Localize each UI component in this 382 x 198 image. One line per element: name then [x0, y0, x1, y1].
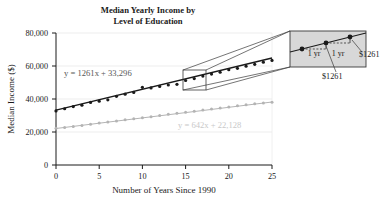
data-point-bachelors: [236, 67, 239, 70]
y-tick-label-0: 0: [44, 161, 48, 170]
data-point-high-school: [98, 122, 101, 125]
data-point-bachelors: [219, 71, 222, 74]
callout-point-2: [324, 41, 329, 46]
data-point-bachelors: [193, 77, 196, 80]
data-point-high-school: [89, 123, 92, 126]
data-point-bachelors: [210, 72, 213, 75]
callout-label-money-bottom: $1261: [322, 72, 342, 81]
data-point-high-school: [72, 125, 75, 128]
data-point-high-school: [201, 109, 204, 112]
data-point-high-school: [193, 110, 196, 113]
data-point-high-school: [253, 102, 256, 105]
data-point-bachelors: [175, 83, 178, 86]
data-point-bachelors: [141, 86, 144, 89]
data-point-high-school: [55, 127, 58, 130]
callout-label-money-right: $1261: [359, 50, 379, 59]
data-point-high-school: [175, 112, 178, 115]
data-point-bachelors: [132, 91, 135, 94]
data-point-bachelors: [253, 63, 256, 66]
data-point-bachelors: [106, 98, 109, 101]
data-point-high-school: [158, 114, 161, 117]
data-point-bachelors: [184, 79, 187, 82]
data-point-high-school: [132, 117, 135, 120]
x-tick-label-5: 5: [97, 172, 101, 181]
y-tick-label-40000: 40,000: [25, 95, 48, 104]
data-point-bachelors: [124, 93, 127, 96]
callout-point-3: [348, 35, 353, 40]
equation-lower-label: y = 642x + 22,128: [178, 120, 241, 130]
x-tick-label-15: 15: [182, 172, 190, 181]
data-point-bachelors: [167, 83, 170, 86]
data-point-bachelors: [80, 104, 83, 107]
data-point-high-school: [236, 104, 239, 107]
callout-point-1: [300, 47, 305, 52]
data-point-high-school: [80, 124, 83, 127]
data-point-high-school: [167, 113, 170, 116]
data-point-bachelors: [227, 68, 230, 71]
y-tick-label-60000: 60,000: [25, 62, 48, 71]
chart-title-line-2: Level of Education: [113, 16, 182, 26]
data-point-high-school: [63, 126, 66, 129]
data-point-bachelors: [89, 101, 92, 104]
callout-label-1yr-left: 1 yr: [308, 49, 321, 58]
chart-figure: Median Yearly Income by Level of Educati…: [0, 0, 382, 198]
chart-title-line-1: Median Yearly Income by: [101, 5, 196, 15]
data-point-high-school: [141, 116, 144, 119]
equation-upper-label: y = 1261x + 33,296: [64, 68, 132, 78]
data-point-bachelors: [201, 74, 204, 77]
x-tick-label-20: 20: [225, 172, 233, 181]
data-point-high-school: [271, 101, 274, 104]
data-point-high-school: [227, 105, 230, 108]
data-point-bachelors: [262, 61, 265, 64]
data-point-bachelors: [149, 86, 152, 89]
median-income-chart: Median Yearly Income by Level of Educati…: [0, 0, 382, 198]
data-point-bachelors: [244, 65, 247, 68]
callout-label-1yr-right: 1 yr: [332, 49, 345, 58]
data-point-bachelors: [54, 109, 57, 112]
data-point-high-school: [150, 115, 153, 118]
data-point-high-school: [124, 118, 127, 121]
data-point-bachelors: [115, 95, 118, 98]
data-point-high-school: [184, 111, 187, 114]
y-tick-label-80000: 80,000: [25, 29, 48, 38]
data-point-high-school: [219, 106, 222, 109]
data-point-bachelors: [72, 105, 75, 108]
data-point-high-school: [262, 101, 265, 104]
y-tick-label-20000: 20,000: [25, 128, 48, 137]
data-point-high-school: [245, 103, 248, 106]
data-point-high-school: [210, 108, 213, 111]
x-tick-label-0: 0: [54, 172, 58, 181]
data-point-bachelors: [98, 100, 101, 103]
y-axis-title: Median Income ($): [6, 64, 16, 133]
data-point-high-school: [115, 119, 118, 122]
data-point-high-school: [106, 120, 109, 123]
data-point-bachelors: [270, 59, 273, 62]
x-axis-title: Number of Years Since 1990: [112, 185, 216, 195]
data-point-bachelors: [63, 107, 66, 110]
x-tick-label-10: 10: [138, 172, 146, 181]
data-point-bachelors: [158, 85, 161, 88]
x-tick-label-25: 25: [268, 172, 276, 181]
